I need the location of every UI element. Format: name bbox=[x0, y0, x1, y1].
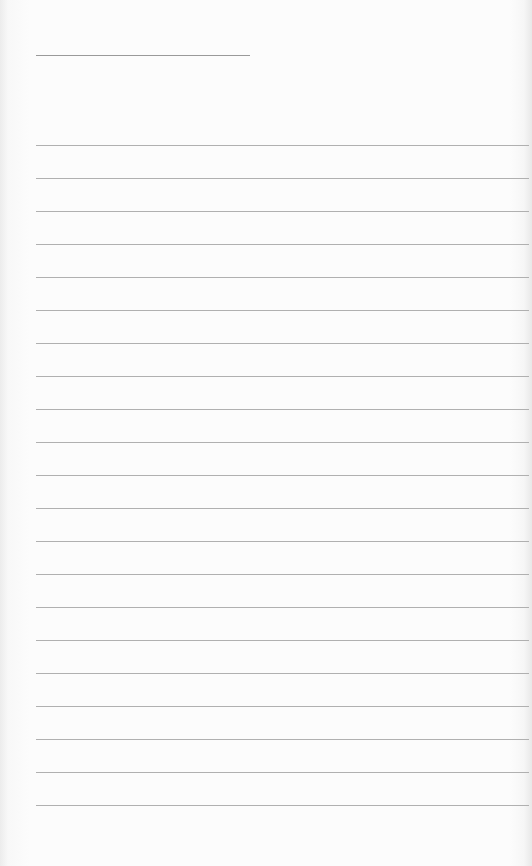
ruled-line bbox=[36, 409, 529, 410]
ruled-line bbox=[36, 145, 529, 146]
ruled-line bbox=[36, 706, 529, 707]
lined-paper-page bbox=[0, 0, 532, 866]
ruled-line bbox=[36, 805, 529, 806]
ruled-line bbox=[36, 343, 529, 344]
ruled-line bbox=[36, 574, 529, 575]
ruled-line bbox=[36, 376, 529, 377]
header-line bbox=[36, 55, 250, 56]
ruled-line bbox=[36, 739, 529, 740]
ruled-line bbox=[36, 277, 529, 278]
ruled-line bbox=[36, 310, 529, 311]
ruled-line bbox=[36, 673, 529, 674]
ruled-line bbox=[36, 508, 529, 509]
ruled-line bbox=[36, 244, 529, 245]
ruled-line bbox=[36, 640, 529, 641]
ruled-line bbox=[36, 442, 529, 443]
ruled-line bbox=[36, 772, 529, 773]
ruled-line bbox=[36, 541, 529, 542]
ruled-line bbox=[36, 475, 529, 476]
ruled-line bbox=[36, 211, 529, 212]
ruled-line bbox=[36, 178, 529, 179]
ruled-line bbox=[36, 607, 529, 608]
